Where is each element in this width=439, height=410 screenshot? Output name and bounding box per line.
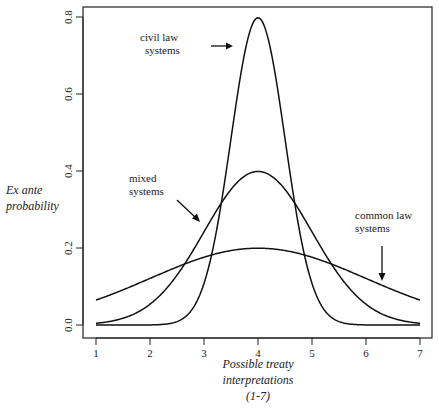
x-tick-label: 1 (93, 347, 99, 359)
x-tick-label: 2 (147, 347, 153, 359)
annotation-mixed-line1: mixed (129, 172, 157, 184)
x-tick-label: 7 (417, 347, 423, 359)
annotation-common-law-line2: systems (355, 222, 390, 234)
y-tick-label: 0.6 (62, 87, 74, 101)
y-tick-label: 0.0 (62, 318, 74, 332)
curve-common-law-systems (96, 248, 420, 300)
arrow-common-law-icon (379, 246, 386, 281)
x-tick-label: 3 (201, 347, 207, 359)
x-axis-label-line2: interpretations (223, 373, 294, 387)
y-tick-label: 0.4 (62, 164, 74, 178)
y-tick-label: 0.2 (62, 241, 74, 255)
arrow-civil-law-icon (211, 43, 233, 50)
x-axis-label-line3: (1-7) (246, 389, 270, 403)
y-axis-label-line2: probability (5, 199, 60, 213)
chart: 0.00.20.40.60.8 1234567 Ex ante probabil… (0, 0, 439, 410)
annotation-civil-law-line2: systems (145, 44, 180, 56)
y-axis-label-line1: Ex ante (5, 183, 43, 197)
annotation-civil-law-line1: civil law (140, 31, 178, 43)
x-axis: 1234567 (93, 338, 423, 359)
arrow-mixed-icon (177, 200, 200, 222)
x-axis-label-line1: Possible treaty (221, 357, 294, 371)
x-tick-label: 6 (363, 347, 369, 359)
y-tick-label: 0.8 (62, 10, 74, 24)
annotation-common-law-line1: common law (355, 209, 412, 221)
x-tick-label: 5 (309, 347, 315, 359)
y-axis: 0.00.20.40.60.8 (62, 10, 83, 332)
annotation-mixed-line2: systems (129, 185, 164, 197)
